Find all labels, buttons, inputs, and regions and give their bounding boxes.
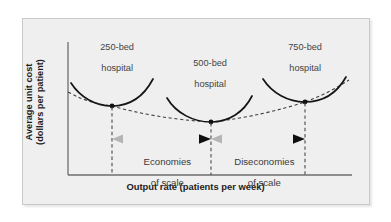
y-axis-title-text: Average unit cost (dollars per patient) [24, 59, 46, 145]
diseconomies-of-scale-arrow [211, 134, 305, 144]
label-250-bed-hospital: 250-bed hospital [76, 32, 148, 83]
label-750-bed-line2: hospital [289, 63, 321, 73]
economies-of-scale-arrow [112, 134, 211, 144]
label-250-bed-line2: hospital [101, 63, 133, 73]
label-diseconomies-line2: of scale [248, 177, 281, 188]
y-axis-title: Average unit cost (dollars per patient) [26, 42, 44, 162]
label-750-bed-line1: 750-bed [288, 42, 322, 52]
economies-of-scale-figure: Average unit cost (dollars per patient) … [0, 0, 391, 222]
label-500-bed-hospital: 500-bed hospital [169, 48, 241, 99]
label-diseconomies-line1: Diseconomies [234, 156, 294, 167]
label-750-bed-hospital: 750-bed hospital [264, 32, 336, 83]
label-economies-of-scale: Economies of scale [118, 146, 206, 200]
label-500-bed-line2: hospital [194, 79, 226, 89]
curve-minimum-markers [110, 100, 308, 125]
label-500-bed-line1: 500-bed [193, 58, 227, 68]
label-250-bed-line1: 250-bed [100, 42, 134, 52]
label-diseconomies-of-scale: Diseconomies of scale [212, 146, 306, 200]
label-economies-line1: Economies [144, 156, 191, 167]
label-economies-line2: of scale [151, 177, 184, 188]
